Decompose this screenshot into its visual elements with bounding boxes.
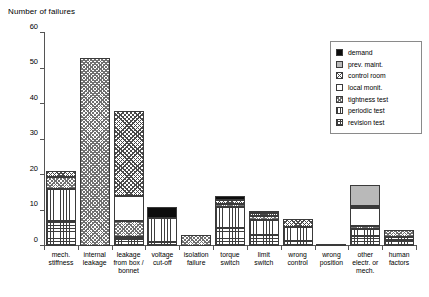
bar-segment-revision[interactable] bbox=[114, 239, 144, 246]
x-tick bbox=[416, 245, 417, 250]
x-tick bbox=[145, 245, 146, 250]
bar-segment-tight[interactable] bbox=[46, 177, 76, 189]
legend-label: tightness test bbox=[348, 96, 388, 103]
legend-item[interactable]: prev. maint. bbox=[336, 59, 416, 71]
legend-item[interactable]: tightness test bbox=[336, 93, 416, 105]
y-axis-line bbox=[44, 33, 45, 246]
x-tick bbox=[247, 245, 248, 250]
y-tick-label: 0 bbox=[34, 235, 38, 243]
bar-segment-revision[interactable] bbox=[46, 221, 76, 246]
bar-stack[interactable] bbox=[283, 219, 313, 246]
legend-swatch-icon bbox=[336, 119, 343, 126]
legend-item[interactable]: local monit. bbox=[336, 82, 416, 94]
y-tick-label: 20 bbox=[30, 164, 38, 172]
x-axis-label: wrong control bbox=[281, 251, 315, 267]
legend-item[interactable]: periodic test bbox=[336, 105, 416, 117]
x-axis-label: voltage cut-off bbox=[145, 251, 179, 267]
bar-segment-period[interactable] bbox=[350, 229, 380, 236]
x-axis-label: leakage from box / bonnet bbox=[112, 251, 146, 276]
bar-stack[interactable] bbox=[215, 196, 245, 246]
bar-stack[interactable] bbox=[316, 244, 346, 246]
bar-stack[interactable] bbox=[384, 230, 414, 246]
y-tick-label: 40 bbox=[30, 93, 38, 101]
y-tick bbox=[40, 174, 45, 175]
bar-stack[interactable] bbox=[80, 58, 110, 246]
x-axis-label: limit switch bbox=[247, 251, 281, 267]
bar-segment-tight[interactable] bbox=[181, 235, 211, 246]
bar-stack[interactable] bbox=[350, 185, 380, 246]
legend-swatch-icon bbox=[336, 72, 343, 79]
x-tick bbox=[112, 245, 113, 250]
x-tick bbox=[44, 245, 45, 250]
bar-segment-period[interactable] bbox=[316, 244, 346, 246]
y-tick-label: 30 bbox=[30, 129, 38, 137]
bar-segment-local[interactable] bbox=[114, 196, 144, 221]
chart-legend: demandprev. maint.control roomlocal moni… bbox=[330, 41, 422, 134]
legend-label: prev. maint. bbox=[348, 61, 383, 68]
legend-item[interactable]: demand bbox=[336, 47, 416, 59]
x-axis-label: mech. stiffness bbox=[44, 251, 78, 267]
x-tick bbox=[348, 245, 349, 250]
bar-stack[interactable] bbox=[249, 211, 279, 246]
legend-item[interactable]: control room bbox=[336, 70, 416, 82]
bar-stack[interactable] bbox=[114, 111, 144, 246]
y-tick bbox=[40, 139, 45, 140]
bar-segment-control[interactable] bbox=[114, 111, 144, 196]
y-tick-label: 50 bbox=[30, 58, 38, 66]
legend-label: revision test bbox=[348, 119, 384, 126]
bar-segment-revision[interactable] bbox=[283, 241, 313, 246]
legend-swatch-icon bbox=[336, 49, 343, 56]
y-tick bbox=[40, 103, 45, 104]
legend-swatch-icon bbox=[336, 61, 343, 68]
bar-segment-revision[interactable] bbox=[384, 240, 414, 246]
x-axis-label: wrong position bbox=[315, 251, 349, 267]
x-axis-label: internal leakage bbox=[78, 251, 112, 267]
legend-label: demand bbox=[348, 49, 373, 56]
bar-segment-demand[interactable] bbox=[147, 207, 177, 218]
bar-segment-revision[interactable] bbox=[249, 235, 279, 246]
x-axis-label: human factors bbox=[382, 251, 416, 267]
bar-segment-control[interactable] bbox=[283, 219, 313, 228]
bar-segment-prev[interactable] bbox=[350, 185, 380, 206]
y-tick bbox=[40, 32, 45, 33]
x-tick bbox=[382, 245, 383, 250]
legend-item[interactable]: revision test bbox=[336, 117, 416, 129]
bar-segment-local[interactable] bbox=[350, 208, 380, 226]
legend-swatch-icon bbox=[336, 107, 343, 114]
x-axis-label: torque switch bbox=[213, 251, 247, 267]
bar-segment-tight[interactable] bbox=[114, 221, 144, 237]
y-axis-title: Number of failures bbox=[8, 7, 75, 16]
legend-swatch-icon bbox=[336, 84, 343, 91]
bar-segment-revision[interactable] bbox=[350, 236, 380, 246]
bar-segment-revision[interactable] bbox=[147, 242, 177, 246]
bar-segment-period[interactable] bbox=[147, 218, 177, 243]
y-tick-label: 60 bbox=[30, 22, 38, 30]
legend-swatch-icon bbox=[336, 96, 343, 103]
x-tick bbox=[213, 245, 214, 250]
bar-segment-revision[interactable] bbox=[215, 228, 245, 246]
bar-segment-period[interactable] bbox=[215, 207, 245, 228]
bar-segment-tight[interactable] bbox=[80, 58, 110, 246]
bar-segment-period[interactable] bbox=[46, 189, 76, 221]
legend-label: control room bbox=[348, 72, 386, 79]
x-tick bbox=[281, 245, 282, 250]
bar-stack[interactable] bbox=[147, 207, 177, 246]
x-axis-label: isolation failure bbox=[179, 251, 213, 267]
bar-stack[interactable] bbox=[181, 235, 211, 246]
x-axis-label: other electr. or mech. bbox=[348, 251, 382, 276]
x-tick bbox=[78, 245, 79, 250]
bar-segment-period[interactable] bbox=[283, 227, 313, 240]
bar-segment-tight[interactable] bbox=[384, 230, 414, 237]
bar-segment-period[interactable] bbox=[249, 220, 279, 235]
y-tick bbox=[40, 68, 45, 69]
y-tick-label: 10 bbox=[30, 200, 38, 208]
bar-stack[interactable] bbox=[46, 171, 76, 246]
legend-label: periodic test bbox=[348, 107, 385, 114]
y-tick bbox=[40, 210, 45, 211]
x-tick bbox=[179, 245, 180, 250]
x-tick bbox=[315, 245, 316, 250]
legend-label: local monit. bbox=[348, 84, 382, 91]
